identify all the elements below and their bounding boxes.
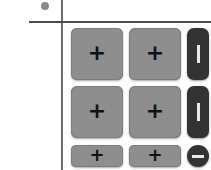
add-button-r3-c2[interactable]: + — [129, 145, 181, 167]
status-dot-icon — [41, 2, 49, 10]
vertical-divider — [61, 0, 63, 170]
toggle-r1[interactable] — [187, 28, 209, 80]
plus-icon: + — [88, 100, 106, 122]
add-button-r2-c1[interactable]: + — [71, 86, 123, 138]
vertical-bar-icon — [197, 45, 200, 63]
toggle-r3[interactable] — [187, 145, 209, 167]
plus-icon: + — [147, 146, 162, 164]
plus-icon: + — [89, 146, 104, 164]
add-button-r1-c1[interactable]: + — [71, 28, 123, 80]
add-button-r2-c2[interactable]: + — [129, 86, 181, 138]
add-button-r1-c2[interactable]: + — [129, 28, 181, 80]
plus-icon: + — [146, 42, 164, 64]
horizontal-divider — [29, 21, 211, 23]
plus-icon: + — [146, 100, 164, 122]
add-button-r3-c1[interactable]: + — [71, 145, 123, 167]
vertical-bar-icon — [197, 103, 200, 121]
plus-icon: + — [88, 42, 106, 64]
minus-icon — [192, 155, 204, 158]
toggle-r2[interactable] — [187, 86, 209, 138]
